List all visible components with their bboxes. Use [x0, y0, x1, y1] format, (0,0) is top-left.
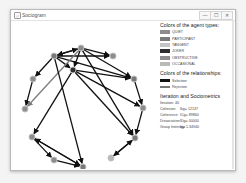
sociogram-graph	[11, 21, 159, 169]
window-title: Sociogram	[22, 11, 46, 19]
relationship-label: Selection	[172, 79, 187, 83]
sociometric-row: Group Intensity:Ig= 1.34940	[160, 124, 232, 130]
sociometric-value: Ig= 1.34940	[180, 124, 199, 130]
sociometrics-list: Cohesion:Ikg= 12137Coherence:ICg= 89860D…	[160, 106, 232, 130]
agent-node[interactable]	[131, 76, 137, 82]
sociometrics-heading: Iteration and Sociometrics	[160, 93, 232, 100]
agent-type-label: OBSTRUCTIVE	[172, 56, 198, 60]
sociogram-app-icon: ◇	[14, 12, 21, 19]
relationships-list: SelectionRejection	[160, 77, 232, 90]
sociometric-label: Group Intensity:	[160, 124, 180, 130]
selection-edge	[135, 82, 142, 104]
relationship-label: Rejection	[172, 85, 187, 89]
sociogram-window: ◇ Sociogram — ☐ ✕ Colors of the agent ty…	[10, 9, 236, 171]
agent-type-label: OCCASIONAL	[172, 62, 196, 66]
color-swatch	[160, 43, 170, 47]
agent-node[interactable]	[29, 134, 35, 140]
color-swatch	[160, 49, 170, 53]
agent-type-label: PARTICIPANT	[172, 37, 195, 41]
legend-panel: Colors of the agent types: QUIETPARTICIP…	[160, 22, 232, 130]
agent-node[interactable]	[80, 164, 86, 169]
agent-type-label: TANGENT	[172, 43, 189, 47]
selection-edge	[136, 111, 142, 134]
selection-edge	[36, 58, 52, 76]
selection-edge	[34, 139, 51, 157]
agent-types-heading: Colors of the agent types:	[160, 22, 232, 29]
selection-edge	[57, 57, 130, 78]
agent-node[interactable]	[78, 45, 84, 51]
color-swatch	[160, 56, 170, 60]
selection-edge	[74, 51, 80, 66]
color-swatch	[160, 30, 170, 34]
selection-edge	[113, 141, 132, 157]
selection-edge	[75, 72, 132, 135]
agent-node[interactable]	[51, 157, 57, 163]
relationships-heading: Colors of the relationships:	[160, 70, 232, 77]
color-swatch	[160, 62, 170, 66]
line-swatch	[160, 86, 170, 89]
agent-node[interactable]	[132, 135, 138, 141]
agent-types-list: QUIETPARTICIPANTTANGENTJOKEROBSTRUCTIVEO…	[160, 29, 232, 67]
color-swatch	[160, 37, 170, 41]
agent-type-label: JOKER	[172, 49, 184, 53]
agent-node[interactable]	[70, 67, 76, 73]
agent-node[interactable]	[110, 53, 116, 59]
agent-node[interactable]	[51, 53, 57, 59]
agent-node[interactable]	[30, 76, 36, 82]
agent-node[interactable]	[140, 105, 146, 111]
vertical-scrollbar[interactable]	[232, 21, 234, 169]
agent-node[interactable]	[108, 155, 114, 161]
title-bar: ◇ Sociogram — ☐ ✕	[11, 10, 235, 21]
line-swatch	[160, 79, 170, 82]
close-button[interactable]: ✕	[221, 11, 233, 20]
agent-node[interactable]	[22, 106, 28, 112]
agent-type-label: QUIET	[172, 30, 183, 34]
